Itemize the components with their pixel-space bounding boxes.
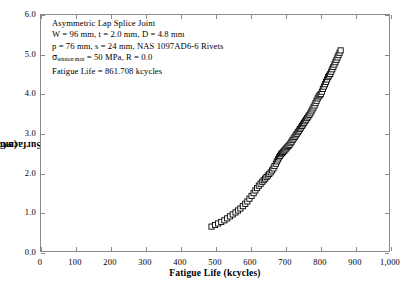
data-point-marker <box>338 48 343 53</box>
x-axis-tick-label: 1,000 <box>370 258 406 267</box>
y-axis-tick-label: 1.0 <box>2 208 36 217</box>
y-axis-tick <box>385 213 389 214</box>
x-axis-tick <box>356 15 357 19</box>
y-axis-tick <box>41 253 45 254</box>
y-axis-title-unit: (mm) <box>0 140 17 150</box>
x-axis-tick <box>41 15 42 19</box>
figure: Faying Surface Crack Length, cb (mm) Asy… <box>0 0 406 289</box>
x-axis-tick <box>216 247 217 251</box>
x-axis-tick <box>391 15 392 19</box>
x-axis-tick <box>181 247 182 251</box>
y-axis-tick-label: 0.0 <box>2 248 36 257</box>
y-axis-tick <box>385 174 389 175</box>
y-axis-tick <box>385 55 389 56</box>
annotation-line-4-rest: = 50 MPa, R = 0.0 <box>85 52 153 62</box>
x-axis-tick-label: 800 <box>300 258 340 267</box>
sigma-subscript: tension max <box>57 57 84 63</box>
x-axis-tick <box>286 15 287 19</box>
x-axis-tick <box>286 247 287 251</box>
x-axis-tick-label: 600 <box>230 258 270 267</box>
x-axis-tick-label: 400 <box>160 258 200 267</box>
x-axis-tick <box>41 247 42 251</box>
x-axis-title: Fatigue Life (kcycles) <box>40 268 390 278</box>
x-axis-tick-label: 900 <box>335 258 375 267</box>
x-axis-tick-label: 200 <box>90 258 130 267</box>
y-axis-tick-label: 5.0 <box>2 50 36 59</box>
y-axis-tick <box>41 213 45 214</box>
annotation-block: Asymmetric Lap Splice Joint W = 96 mm, t… <box>52 18 223 77</box>
x-axis-tick-label: 100 <box>55 258 95 267</box>
x-axis-tick <box>76 247 77 251</box>
y-axis-tick <box>41 174 45 175</box>
y-axis-tick-label: 6.0 <box>2 10 36 19</box>
x-axis-tick-label: 300 <box>125 258 165 267</box>
y-axis-tick <box>385 94 389 95</box>
x-axis-tick <box>251 15 252 19</box>
y-axis-tick <box>385 253 389 254</box>
y-axis-tick-label: 2.0 <box>2 169 36 178</box>
x-axis-tick <box>391 247 392 251</box>
y-axis-tick <box>385 134 389 135</box>
x-axis-tick <box>251 247 252 251</box>
y-axis-tick <box>41 94 45 95</box>
y-axis-title: Faying Surface Crack Length, cb (mm) <box>0 0 14 289</box>
annotation-line-3: p = 76 mm, s = 24 mm, NAS 1097AD6-6 Rive… <box>52 41 223 52</box>
x-axis-tick <box>321 247 322 251</box>
y-axis-tick <box>41 55 45 56</box>
annotation-line-5: Fatigue Life = 861.708 kcycles <box>52 66 223 77</box>
x-axis-tick-label: 700 <box>265 258 305 267</box>
annotation-line-4: σtension max = 50 MPa, R = 0.0 <box>52 52 223 66</box>
x-axis-tick-label: 500 <box>195 258 235 267</box>
y-axis-tick <box>41 134 45 135</box>
annotation-line-1: Asymmetric Lap Splice Joint <box>52 18 223 29</box>
annotation-line-2: W = 96 mm, t = 2.0 mm, D = 4.8 mm <box>52 29 223 40</box>
x-axis-tick <box>146 247 147 251</box>
y-axis-tick <box>385 15 389 16</box>
y-axis-tick-label: 4.0 <box>2 89 36 98</box>
x-axis-tick <box>356 247 357 251</box>
x-axis-tick <box>321 15 322 19</box>
y-axis-tick-label: 3.0 <box>2 129 36 138</box>
x-axis-tick <box>111 247 112 251</box>
x-axis-tick-label: 0 <box>20 258 60 267</box>
